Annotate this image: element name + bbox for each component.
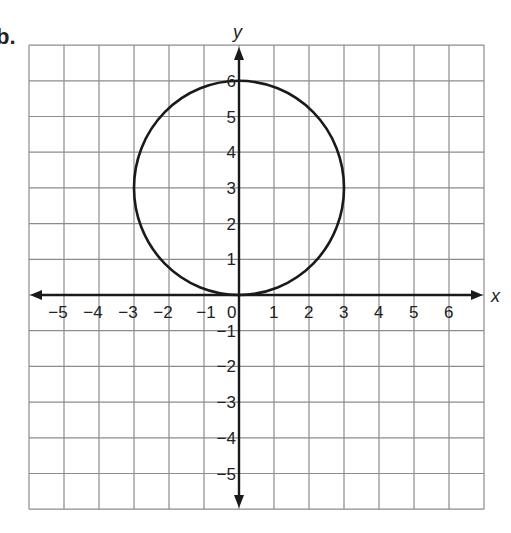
y-tick-label: −3: [217, 393, 236, 412]
x-tick-label: −4: [83, 303, 102, 322]
y-tick-label: 1: [227, 250, 236, 269]
x-tick-label: −2: [153, 303, 172, 322]
coordinate-plane: b. −5−4−3−2−10123456 −5−4−3−2−1123456 x …: [0, 0, 511, 533]
y-tick-label: 4: [227, 143, 236, 162]
y-tick-label: 6: [227, 72, 236, 91]
y-tick-label: −1: [217, 322, 236, 341]
problem-label: b.: [0, 24, 16, 49]
x-tick-label: 6: [444, 303, 453, 322]
y-tick-label: −5: [217, 465, 236, 484]
x-tick-label: 1: [269, 303, 278, 322]
x-axis-label: x: [490, 286, 501, 306]
y-tick-label: −2: [217, 357, 236, 376]
y-tick-label: 3: [227, 179, 236, 198]
y-tick-label: 5: [227, 108, 236, 127]
x-tick-label: 4: [374, 303, 383, 322]
y-tick-labels: −5−4−3−2−1123456: [217, 72, 236, 484]
x-axis-left-arrow-icon: [30, 290, 42, 300]
x-tick-label: 3: [339, 303, 348, 322]
y-tick-label: −4: [217, 429, 236, 448]
x-axis-right-arrow-icon: [471, 290, 483, 300]
y-axis-up-arrow-icon: [234, 47, 244, 60]
x-tick-labels: −5−4−3−2−10123456: [48, 303, 453, 322]
y-axis-label: y: [231, 22, 243, 42]
x-tick-label: −3: [118, 303, 137, 322]
x-tick-label: 0: [227, 303, 236, 322]
x-tick-label: −5: [48, 303, 67, 322]
y-axis-down-arrow-icon: [234, 495, 244, 508]
x-tick-label: 5: [409, 303, 418, 322]
grid: [29, 45, 484, 509]
x-tick-label: −1: [196, 303, 215, 322]
x-tick-label: 2: [304, 303, 313, 322]
y-tick-label: 2: [227, 215, 236, 234]
